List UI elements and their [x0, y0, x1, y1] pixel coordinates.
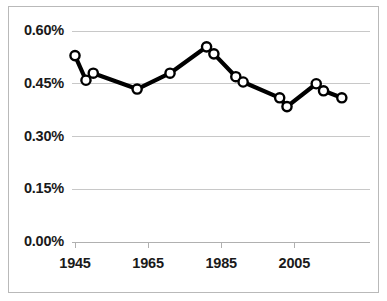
- data-point-marker: [165, 69, 174, 78]
- data-point-marker: [209, 49, 218, 58]
- data-point-marker: [70, 51, 79, 60]
- data-point-marker: [133, 84, 142, 93]
- x-axis-tick-label: 1945: [45, 255, 105, 271]
- y-axis-tick-label: 0.15%: [2, 180, 64, 196]
- data-line: [75, 47, 342, 107]
- chart-figure: 0.00%0.15%0.30%0.45%0.60% 19451965198520…: [0, 0, 387, 301]
- data-point-marker: [89, 69, 98, 78]
- x-axis-tick-label: 2005: [264, 255, 324, 271]
- y-axis-tick-label: 0.00%: [2, 233, 64, 249]
- data-point-marker: [239, 77, 248, 86]
- x-axis-tick-label: 1985: [191, 255, 251, 271]
- y-axis-tick-label: 0.30%: [2, 128, 64, 144]
- data-point-marker: [282, 102, 291, 111]
- x-axis-ticks-group: [75, 242, 294, 248]
- y-axis-tick-label: 0.45%: [2, 75, 64, 91]
- data-point-marker: [319, 86, 328, 95]
- data-line-group: [75, 47, 342, 107]
- x-axis-tick-label: 1965: [118, 255, 178, 271]
- y-axis-tick-label: 0.60%: [2, 22, 64, 38]
- data-point-marker: [337, 93, 346, 102]
- data-markers-group: [70, 42, 346, 111]
- data-point-marker: [275, 93, 284, 102]
